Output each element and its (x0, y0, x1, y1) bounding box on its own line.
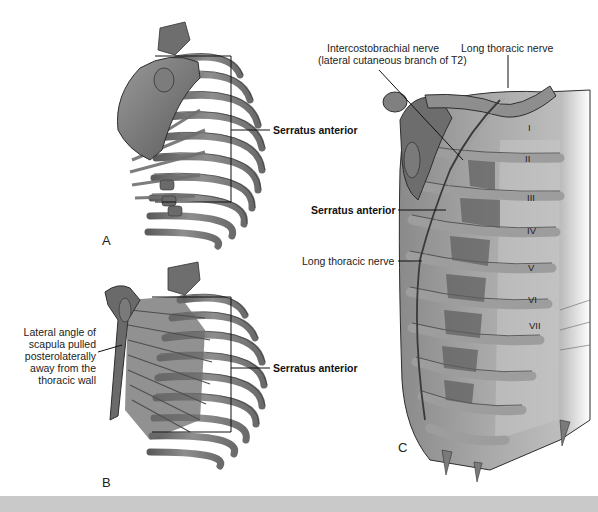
panel-letter-c: C (398, 440, 407, 455)
rib-numeral-v: V (528, 262, 534, 274)
panel-b-ribcage (98, 262, 270, 466)
label-b-lateral-angle-scapula: Lateral angle of scapula pulled posterol… (8, 326, 96, 386)
anatomy-illustration (0, 0, 598, 512)
label-c-long-thoracic-nerve-top: Long thoracic nerve (461, 42, 553, 54)
label-c-intercostobrachial-nerve: Intercostobrachial nerve (lateral cutane… (318, 42, 448, 66)
label-c-serratus-anterior: Serratus anterior (311, 204, 396, 216)
panel-a-ribcage (117, 22, 270, 246)
label-a-serratus-anterior: Serratus anterior (273, 124, 358, 136)
rib-numeral-ii: II (525, 153, 530, 165)
rib-numeral-vi: VI (528, 294, 537, 306)
rib-numeral-iv: IV (527, 225, 536, 237)
rib-numeral-i: I (528, 122, 531, 134)
panel-letter-a: A (102, 233, 111, 248)
label-c-long-thoracic-nerve-mid: Long thoracic nerve (302, 255, 394, 267)
label-b-serratus-anterior: Serratus anterior (273, 362, 358, 374)
panel-letter-b: B (102, 475, 111, 490)
panel-c-lateral-thorax (379, 55, 590, 482)
rib-numeral-vii: VII (529, 320, 541, 332)
caption-band (0, 496, 598, 512)
rib-numeral-iii: III (527, 192, 535, 204)
